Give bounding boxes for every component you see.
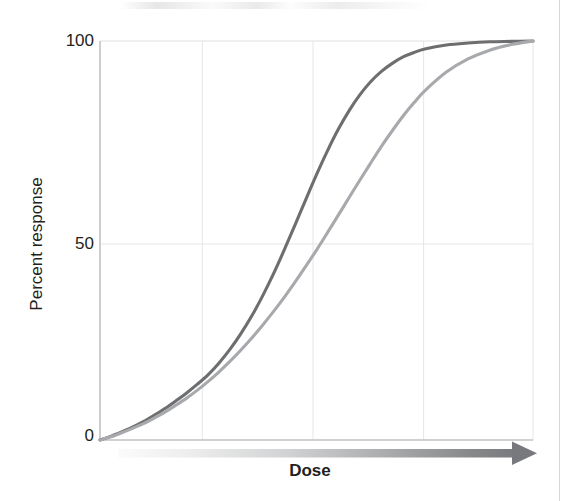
y-axis-tick-100: 100	[52, 31, 94, 51]
x-axis-label: Dose	[100, 461, 520, 481]
y-axis-label: Percent response	[27, 149, 47, 339]
curve-high-potency	[100, 41, 533, 440]
gridlines	[100, 41, 533, 440]
y-axis-tick-0: 0	[52, 426, 94, 446]
y-axis-tick-50: 50	[52, 234, 94, 254]
figure-page: 100 50 0 Percent response Dose	[0, 0, 568, 501]
dose-response-chart: 100 50 0 Percent response Dose	[0, 0, 568, 501]
axis-lines	[100, 41, 533, 440]
data-curves	[100, 41, 533, 440]
curve-low-potency	[100, 41, 533, 440]
